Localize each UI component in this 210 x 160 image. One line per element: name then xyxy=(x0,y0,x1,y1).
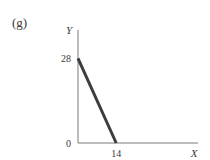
y-axis-label: Y xyxy=(66,24,74,36)
panel-label: (g) xyxy=(12,15,27,30)
series-line xyxy=(78,58,116,143)
x-tick-label: 14 xyxy=(111,148,121,159)
y-tick-label: 0 xyxy=(66,138,71,149)
chart: (g) Y X 028 14 xyxy=(0,0,210,160)
y-tick-label: 28 xyxy=(61,53,71,64)
x-axis-label: X xyxy=(190,147,199,159)
